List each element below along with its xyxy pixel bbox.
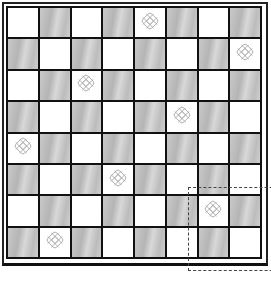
board-square-r5c1[interactable]	[40, 165, 70, 194]
board-square-r4c6[interactable]	[199, 134, 229, 163]
celtic-knot-icon[interactable]	[46, 231, 64, 253]
board-square-r6c3[interactable]	[103, 196, 133, 225]
board-square-r7c3[interactable]	[103, 228, 133, 257]
board-square-r1c5[interactable]	[167, 39, 197, 68]
board-square-r3c7[interactable]	[230, 102, 260, 131]
board-square-r2c3[interactable]	[103, 71, 133, 100]
board-square-r0c1[interactable]	[40, 8, 70, 37]
board-square-r0c7[interactable]	[230, 8, 260, 37]
celtic-knot-icon[interactable]	[14, 137, 32, 159]
board-square-r4c7[interactable]	[230, 134, 260, 163]
celtic-knot-icon[interactable]	[77, 74, 95, 96]
board-square-r1c4[interactable]	[135, 39, 165, 68]
board-square-r3c1[interactable]	[40, 102, 70, 131]
board-square-r7c4[interactable]	[135, 228, 165, 257]
celtic-knot-icon[interactable]	[141, 12, 159, 34]
board-square-r3c2[interactable]	[72, 102, 102, 131]
board-square-r1c6[interactable]	[199, 39, 229, 68]
board-square-r3c6[interactable]	[199, 102, 229, 131]
board-square-r5c2[interactable]	[72, 165, 102, 194]
board-square-r0c2[interactable]	[72, 8, 102, 37]
board-square-r0c4[interactable]	[135, 8, 165, 37]
board-square-r6c0[interactable]	[8, 196, 38, 225]
board-square-r3c5[interactable]	[167, 102, 197, 131]
board-square-r4c2[interactable]	[72, 134, 102, 163]
board-square-r6c1[interactable]	[40, 196, 70, 225]
selection-marquee[interactable]	[188, 187, 271, 271]
board-square-r1c1[interactable]	[40, 39, 70, 68]
board-square-r4c3[interactable]	[103, 134, 133, 163]
board-square-r2c1[interactable]	[40, 71, 70, 100]
board-square-r2c4[interactable]	[135, 71, 165, 100]
board-square-r2c5[interactable]	[167, 71, 197, 100]
board-square-r6c4[interactable]	[135, 196, 165, 225]
board-square-r5c0[interactable]	[8, 165, 38, 194]
board-square-r1c7[interactable]	[230, 39, 260, 68]
board-square-r5c3[interactable]	[103, 165, 133, 194]
board-square-r2c0[interactable]	[8, 71, 38, 100]
board-square-r0c6[interactable]	[199, 8, 229, 37]
board-square-r1c2[interactable]	[72, 39, 102, 68]
board-square-r2c7[interactable]	[230, 71, 260, 100]
board-square-r5c4[interactable]	[135, 165, 165, 194]
board-square-r7c1[interactable]	[40, 228, 70, 257]
board-square-r1c0[interactable]	[8, 39, 38, 68]
celtic-knot-icon[interactable]	[173, 106, 191, 128]
board-square-r3c3[interactable]	[103, 102, 133, 131]
celtic-knot-icon[interactable]	[236, 43, 254, 65]
board-square-r6c2[interactable]	[72, 196, 102, 225]
board-square-r4c5[interactable]	[167, 134, 197, 163]
board-square-r7c0[interactable]	[8, 228, 38, 257]
board-square-r2c2[interactable]	[72, 71, 102, 100]
board-square-r2c6[interactable]	[199, 71, 229, 100]
board-square-r0c3[interactable]	[103, 8, 133, 37]
board-square-r4c4[interactable]	[135, 134, 165, 163]
board-square-r0c5[interactable]	[167, 8, 197, 37]
board-square-r4c1[interactable]	[40, 134, 70, 163]
board-square-r3c4[interactable]	[135, 102, 165, 131]
board-square-r4c0[interactable]	[8, 134, 38, 163]
board-square-r1c3[interactable]	[103, 39, 133, 68]
celtic-knot-icon[interactable]	[109, 169, 127, 191]
board-square-r3c0[interactable]	[8, 102, 38, 131]
board-square-r0c0[interactable]	[8, 8, 38, 37]
board-square-r7c2[interactable]	[72, 228, 102, 257]
